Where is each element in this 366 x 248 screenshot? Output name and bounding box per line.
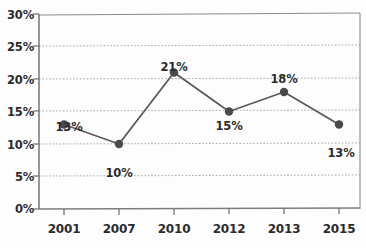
line-chart: 30% 25% 20% 15% 10% 5% 0% 2001 2007 2010… (0, 0, 366, 248)
data-label-2012: 15% (211, 119, 247, 133)
data-point-marker (280, 88, 288, 96)
data-label-2001: 13% (51, 120, 87, 134)
data-point-marker (225, 107, 233, 115)
x-tick-label-2001: 2001 (37, 222, 91, 236)
y-tick-label-0: 0% (0, 202, 34, 216)
data-label-2010: 21% (156, 60, 192, 74)
gridlines (39, 45, 360, 176)
y-tick-label-5: 5% (0, 170, 34, 184)
data-label-2015: 13% (323, 146, 359, 160)
x-tick-label-2012: 2012 (202, 222, 256, 236)
y-tick-label-25: 25% (0, 40, 34, 54)
y-tick-label-30: 30% (0, 8, 34, 22)
x-tick-label-2007: 2007 (92, 222, 146, 236)
data-point-marker (335, 120, 343, 128)
y-tick-label-20: 20% (0, 73, 34, 87)
x-tick-label-2013: 2013 (257, 222, 311, 236)
x-tick-label-2010: 2010 (147, 222, 201, 236)
y-tick-label-15: 15% (0, 105, 34, 119)
data-label-2007: 10% (101, 166, 137, 180)
x-axis (39, 208, 360, 215)
x-tick-label-2015: 2015 (312, 222, 366, 236)
y-tick-label-10: 10% (0, 138, 34, 152)
data-point-marker (115, 140, 123, 148)
data-label-2013: 18% (266, 72, 302, 86)
